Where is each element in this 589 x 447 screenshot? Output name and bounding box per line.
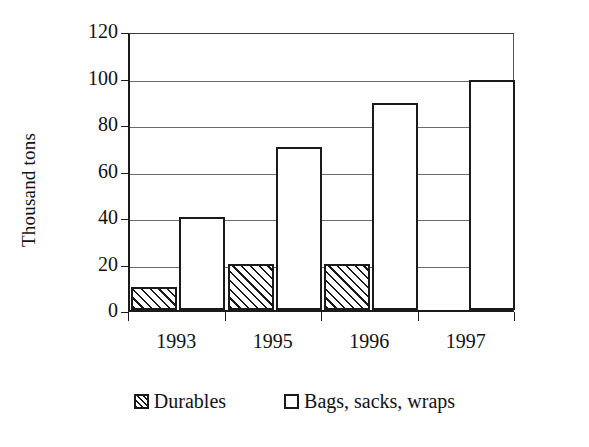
y-axis-tick-label: 80 xyxy=(62,114,118,134)
legend-item: Bags, sacks, wraps xyxy=(284,390,455,413)
bars-layer xyxy=(130,34,513,310)
y-axis-title: Thousand tons xyxy=(18,90,46,290)
x-axis-tick-mark xyxy=(128,312,129,321)
legend-item-label: Bags, sacks, wraps xyxy=(304,390,455,413)
plot-area xyxy=(128,33,514,312)
bar xyxy=(228,264,274,311)
bar xyxy=(324,264,370,311)
y-axis-tick-label: 60 xyxy=(62,161,118,181)
x-axis-tick-mark xyxy=(514,312,515,321)
legend-item: Durables xyxy=(134,390,226,413)
bar xyxy=(131,287,177,310)
x-axis-tick-label: 1995 xyxy=(228,329,318,353)
x-axis-tick-label: 1997 xyxy=(421,329,511,353)
bar xyxy=(469,80,515,310)
y-axis-tick-label: 100 xyxy=(62,68,118,88)
x-axis-tick-label: 1996 xyxy=(324,329,414,353)
bar xyxy=(276,147,322,310)
x-axis-tick-label: 1993 xyxy=(131,329,221,353)
x-axis-tick-mark xyxy=(321,312,322,321)
bar xyxy=(179,217,225,310)
white-square-icon xyxy=(284,394,299,409)
chart-legend: DurablesBags, sacks, wraps xyxy=(0,390,589,413)
x-axis-tick-mark xyxy=(418,312,419,321)
y-axis-tick-label: 0 xyxy=(62,300,118,320)
y-axis-tick-label: 40 xyxy=(62,207,118,227)
x-axis-tick-mark xyxy=(225,312,226,321)
bar-chart: Thousand tons 020406080100120 1993199519… xyxy=(0,0,589,447)
y-axis-title-text: Thousand tons xyxy=(18,133,39,247)
y-axis-tick-label: 120 xyxy=(62,21,118,41)
hatched-square-icon xyxy=(134,394,149,409)
bar xyxy=(372,103,418,310)
legend-item-label: Durables xyxy=(154,390,226,413)
y-axis-tick-label: 20 xyxy=(62,254,118,274)
